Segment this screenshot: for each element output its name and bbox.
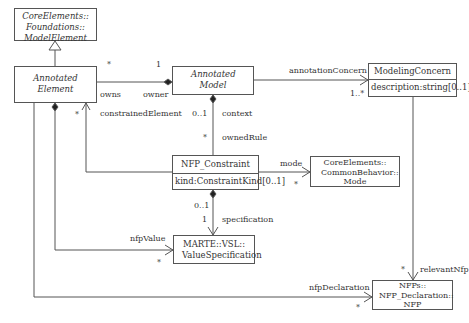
class-value-specification[interactable]: MARTE::VSL:: ValueSpecification <box>173 235 255 264</box>
owner-role: owner <box>143 90 168 99</box>
nfp-value-role: nfpValue <box>130 234 166 243</box>
spec-owner-multiplicity: 0..1 <box>194 201 209 210</box>
owns-multiplicity: * <box>107 60 111 69</box>
nfp-declaration-role: nfpDeclaration <box>309 283 370 292</box>
constrained-element-role: constrainedElement <box>100 109 182 118</box>
context-role: context <box>222 109 252 118</box>
owned-rule-role: ownedRule <box>222 133 267 142</box>
class-annotated-model[interactable]: Annotated Model <box>172 66 254 95</box>
class-nfp-constraint[interactable]: NFP_Constraint kind:ConstraintKind[0..1] <box>172 155 259 190</box>
class-name: ModelingConcern <box>369 64 456 79</box>
class-nfp[interactable]: NFPs:: NFP_Declaration:: NFP <box>372 280 453 310</box>
class-name: NFP_Constraint <box>173 156 258 173</box>
annotation-concern-role: annotationConcern <box>289 66 367 75</box>
relevant-nfp-multiplicity: * <box>401 265 405 274</box>
class-name: MARTE::VSL:: ValueSpecification <box>174 236 254 264</box>
specification-role: specification <box>222 215 273 224</box>
owner-multiplicity: 1 <box>156 60 161 69</box>
class-name: NFPs:: NFP_Declaration:: NFP <box>373 281 452 310</box>
class-attribute: description:string[0..1] <box>369 79 456 95</box>
nfp-declaration-multiplicity: * <box>356 303 360 312</box>
class-name: CoreElements:: Foundations:: ModelElemen… <box>15 9 96 46</box>
class-mode[interactable]: CoreElements:: CommonBehavior:: Mode <box>310 156 400 187</box>
class-annotated-element[interactable]: Annotated Element <box>14 66 97 103</box>
context-multiplicity: 0..1 <box>192 109 207 118</box>
annotation-concern-multiplicity: 1..* <box>350 89 364 98</box>
relevant-nfp-role: relevantNfp <box>420 265 469 274</box>
owns-role: owns <box>100 90 121 99</box>
class-name: CoreElements:: CommonBehavior:: Mode <box>311 157 399 188</box>
class-modeling-concern[interactable]: ModelingConcern description:string[0..1] <box>368 63 457 97</box>
constrained-multiplicity: * <box>75 110 79 119</box>
mode-role: mode <box>280 159 302 168</box>
spec-multiplicity: 1 <box>202 215 207 224</box>
nfp-value-multiplicity: * <box>157 258 161 267</box>
class-name: Annotated Element <box>15 73 96 95</box>
class-name: Annotated Model <box>173 67 253 93</box>
mode-multiplicity: * <box>294 180 298 189</box>
class-model-element[interactable]: CoreElements:: Foundations:: ModelElemen… <box>14 8 97 41</box>
class-attribute: kind:ConstraintKind[0..1] <box>173 173 258 189</box>
owned-rule-multiplicity: * <box>203 133 207 142</box>
